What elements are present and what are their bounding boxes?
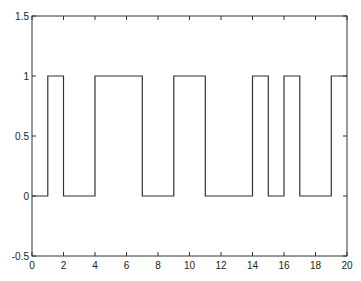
step-chart: 02468101214161820 -0.500.511.5 [0, 0, 361, 281]
x-tick-label: 20 [341, 260, 353, 271]
x-tick-label: 12 [215, 260, 227, 271]
y-tick-label: -0.5 [12, 251, 30, 262]
y-tick-label: 0.5 [15, 131, 29, 142]
x-tick-label: 4 [92, 260, 98, 271]
x-tick-label: 2 [61, 260, 67, 271]
x-tick-label: 16 [278, 260, 290, 271]
x-tick-label: 8 [155, 260, 161, 271]
x-tick-label: 18 [310, 260, 322, 271]
x-tick-label: 0 [29, 260, 35, 271]
x-tick-label: 6 [124, 260, 130, 271]
y-tick-label: 0 [23, 191, 29, 202]
y-tick-label: 1.5 [15, 11, 29, 22]
y-tick-label: 1 [23, 71, 29, 82]
x-tick-label: 10 [184, 260, 196, 271]
x-tick-label: 14 [247, 260, 259, 271]
